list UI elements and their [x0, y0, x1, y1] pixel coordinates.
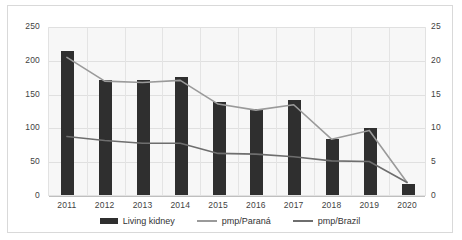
legend-item-label: Living kidney — [123, 216, 175, 226]
legend-item-pmp-paran[interactable]: pmp/Paraná — [197, 216, 271, 226]
x-tick-2019: 2019 — [349, 200, 389, 210]
y-tick-left-100: 100 — [10, 123, 40, 132]
line-pmp-paran — [67, 57, 407, 182]
y-tick-right-15: 15 — [431, 90, 461, 99]
y-tick-right-10: 10 — [431, 123, 461, 132]
y-tick-left-50: 50 — [10, 157, 40, 166]
y-tick-left-150: 150 — [10, 90, 40, 99]
chart-overlay — [48, 27, 426, 196]
legend-item-label: pmp/Paraná — [222, 216, 271, 226]
line-pmp-brazil — [67, 137, 407, 183]
y-tick-right-25: 25 — [431, 22, 461, 31]
chart-figure: 050100150200250 0510152025 2011201220132… — [0, 0, 462, 240]
y-tick-right-0: 0 — [431, 191, 461, 200]
y-tick-left-200: 200 — [10, 56, 40, 65]
legend-line-swatch-icon — [197, 220, 217, 222]
y-tick-left-0: 0 — [10, 191, 40, 200]
legend-bar-swatch-icon — [100, 218, 118, 224]
x-tick-2020: 2020 — [387, 200, 427, 210]
gridline-horizontal — [49, 196, 425, 197]
x-tick-2018: 2018 — [312, 200, 352, 210]
legend-item-living-kidney[interactable]: Living kidney — [100, 216, 175, 226]
y-tick-left-250: 250 — [10, 22, 40, 31]
x-tick-2011: 2011 — [47, 200, 87, 210]
y-tick-right-20: 20 — [431, 56, 461, 65]
chart-frame-border: 050100150200250 0510152025 2011201220132… — [7, 5, 453, 233]
x-tick-2017: 2017 — [274, 200, 314, 210]
x-tick-2013: 2013 — [123, 200, 163, 210]
legend-item-pmp-brazil[interactable]: pmp/Brazil — [293, 216, 361, 226]
chart-legend: Living kidneypmp/Paranápmp/Brazil — [8, 216, 452, 226]
x-tick-2016: 2016 — [236, 200, 276, 210]
legend-line-swatch-icon — [293, 220, 313, 222]
x-tick-2012: 2012 — [85, 200, 125, 210]
legend-item-label: pmp/Brazil — [318, 216, 361, 226]
x-tick-2015: 2015 — [198, 200, 238, 210]
y-tick-right-5: 5 — [431, 157, 461, 166]
x-tick-2014: 2014 — [160, 200, 200, 210]
